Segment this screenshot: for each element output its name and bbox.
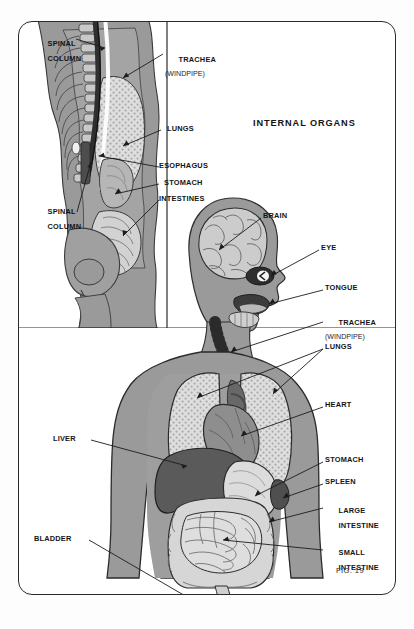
label-large-intestine: LARGE INTESTINE <box>325 499 379 537</box>
figure-card: SPINAL COLUMN TRACHEA (WINDPIPE) LUNGS E… <box>18 21 396 595</box>
label-spinal-column-top: SPINAL COLUMN <box>34 32 81 70</box>
label-tongue: TONGUE <box>325 284 358 292</box>
figure-caption: FIG. 19 <box>336 566 364 575</box>
label-eye: EYE <box>321 244 336 252</box>
figure-title: INTERNAL ORGANS <box>253 118 356 128</box>
label-heart: HEART <box>325 401 351 409</box>
label-lungs-inset: LUNGS <box>167 125 194 133</box>
label-esophagus-inset: ESOPHAGUS <box>159 162 208 170</box>
label-spleen: SPLEEN <box>325 478 356 486</box>
label-stomach-inset: STOMACH <box>164 179 203 187</box>
label-brain: BRAIN <box>263 212 287 220</box>
label-spinal-column-bottom: SPINAL COLUMN <box>34 200 81 238</box>
label-liver: LIVER <box>53 435 76 443</box>
label-stomach: STOMACH <box>325 456 364 464</box>
label-trachea-inset: TRACHEA (WINDPIPE) <box>165 48 216 93</box>
diagram-canvas: SPINAL COLUMN TRACHEA (WINDPIPE) LUNGS E… <box>0 0 414 629</box>
label-bladder: BLADDER <box>34 535 72 543</box>
label-lungs: LUNGS <box>325 343 352 351</box>
label-intestines-inset: INTESTINES <box>159 195 205 203</box>
